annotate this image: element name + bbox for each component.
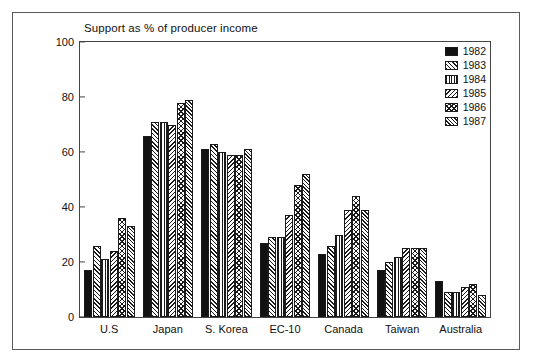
legend-label: 1985 [463,88,486,99]
y-axis-tick-label: 0 [68,311,80,323]
bar [377,270,385,317]
x-axis-tick-label: Taiwan [385,323,419,335]
x-axis-tick-label: Japan [153,323,183,335]
bar [118,218,126,317]
legend-label: 1987 [463,116,486,127]
bar [335,235,343,318]
bar [110,251,118,317]
legend-swatch [445,89,458,98]
bar [394,257,402,318]
bar [201,149,209,317]
bar [127,226,135,317]
y-axis-tick-label: 60 [62,146,80,158]
bar [411,248,419,317]
bar-group [143,42,194,317]
legend-item: 1984 [445,74,486,85]
bar [260,243,268,317]
bar [344,210,352,317]
bar-group [84,42,135,317]
bar [435,281,443,317]
bar [235,155,243,317]
bar [101,259,109,317]
bar [294,185,302,317]
y-axis-tick-label: 40 [62,201,80,213]
legend-swatch [445,75,458,84]
bar [143,136,151,318]
bar [402,248,410,317]
legend-label: 1986 [463,102,486,113]
bar [318,254,326,317]
y-axis-tick-label: 100 [56,36,80,48]
bar [385,262,393,317]
legend-item: 1987 [445,116,486,127]
bar [352,196,360,317]
legend-item: 1986 [445,102,486,113]
bar [444,292,452,317]
legend-item: 1982 [445,46,486,57]
legend-label: 1984 [463,74,486,85]
bar [469,284,477,317]
bar [84,270,92,317]
bar [285,215,293,317]
x-axis-tick-label: EC-10 [269,323,300,335]
bar [277,237,285,317]
y-axis-tick-label: 20 [62,256,80,268]
bars-layer [80,42,490,317]
legend-swatch [445,117,458,126]
legend-item: 1983 [445,60,486,71]
bar [478,295,486,317]
x-axis-tick-label: S. Korea [205,323,248,335]
bar [160,122,168,317]
x-axis-tick-label: Australia [439,323,482,335]
bar [244,149,252,317]
legend-label: 1983 [463,60,486,71]
y-axis-tick-label: 80 [62,91,80,103]
bar [210,144,218,317]
bar [327,246,335,318]
bar-group [260,42,311,317]
bar [93,246,101,318]
legend-swatch [445,61,458,70]
legend-swatch [445,103,458,112]
bar-group [377,42,428,317]
bar [177,103,185,318]
bar [419,248,427,317]
bar [227,155,235,317]
bar [168,125,176,318]
bar [218,152,226,317]
bar-group [318,42,369,317]
bar [268,237,276,317]
legend-swatch [445,47,458,56]
chart-title: Support as % of producer income [84,22,258,34]
x-axis-tick-label: U.S [100,323,118,335]
bar [461,287,469,317]
legend-item: 1985 [445,88,486,99]
legend-label: 1982 [463,46,486,57]
bar [151,122,159,317]
bar [452,292,460,317]
legend: 198219831984198519861987 [445,46,486,127]
bar [302,174,310,317]
x-axis-tick-label: Canada [324,323,363,335]
bar [361,210,369,317]
figure: Support as % of producer income 02040608… [0,0,533,363]
plot-area: 020406080100 U.SJapanS. KoreaEC-10Canada… [79,41,491,318]
bar-group [201,42,252,317]
bar [185,100,193,317]
